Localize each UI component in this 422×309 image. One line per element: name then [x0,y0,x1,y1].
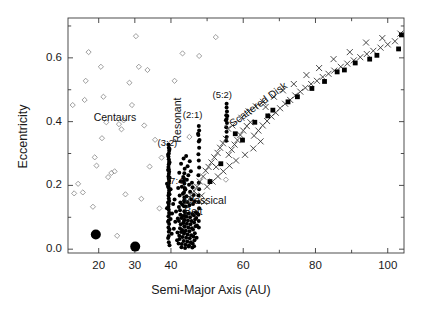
y-axis-title: Eccentricity [16,105,30,169]
scatter-plot-figure: Semi-Major Axis (AU) Eccentricity 203040… [0,0,422,309]
data-points [70,31,404,252]
x-tick-label: 40 [157,259,185,271]
x-tick-label: 80 [301,259,329,271]
annotation-centaurs: Centaurs [94,111,137,123]
annotation-7-4: (7:4) [167,174,187,185]
y-tick-label: 0.0 [38,242,62,254]
annotation-3-2: (3:2) [158,137,178,148]
y-tick-label: 0.2 [38,178,62,190]
y-tick-label: 0.6 [38,51,62,63]
annotation-resonant: Resonant [171,98,183,143]
x-tick-label: 30 [121,259,149,271]
plot-canvas [0,0,422,309]
y-tick-label: 0.4 [38,115,62,127]
series-planets [91,230,140,252]
annotation-classical-belt: ClassicalBelt [184,195,226,217]
annotation-2-1: (2:1) [183,108,203,119]
annotation-5-2: (5:2) [212,88,232,99]
x-tick-label: 60 [229,259,257,271]
x-axis-title: Semi-Major Axis (AU) [0,283,422,297]
x-tick-label: 100 [374,259,402,271]
x-tick-label: 20 [85,259,113,271]
